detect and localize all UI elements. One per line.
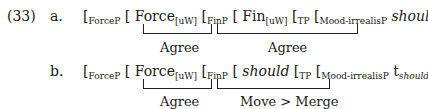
example-number: (33): [7, 8, 36, 24]
agree-label-b1: Agree: [160, 94, 199, 109]
example-a-label: a.: [50, 8, 63, 24]
move-merge-bracket-b2: [217, 79, 330, 89]
example-b-label: b.: [50, 63, 63, 79]
agree-label-a1: Agree: [160, 40, 199, 55]
agree-bracket-a2: [217, 24, 358, 34]
move-merge-label-b2: Move > Merge: [240, 94, 339, 109]
agree-bracket-a1: [143, 24, 212, 34]
agree-label-a2: Agree: [268, 40, 307, 55]
agree-bracket-b1: [143, 79, 212, 89]
